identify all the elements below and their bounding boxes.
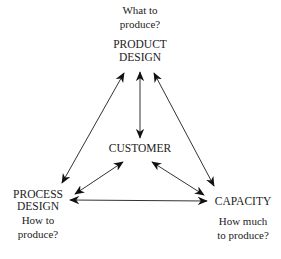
diagram-canvas: What to produce? PRODUCT DESIGN CUSTOMER… — [0, 0, 281, 259]
process-question-line1: How to — [22, 214, 55, 226]
edge-product-process — [62, 73, 124, 183]
node-process-design: PROCESS DESIGN How to produce? — [13, 188, 63, 240]
product-question-line1: What to — [122, 4, 158, 16]
edge-process-capacity — [70, 200, 207, 201]
node-capacity: CAPACITY How much to produce? — [215, 195, 272, 241]
edge-customer-capacity — [152, 162, 204, 195]
process-question-line2: produce? — [18, 228, 58, 240]
process-label-line2: DESIGN — [17, 200, 60, 212]
diagram-svg: What to produce? PRODUCT DESIGN CUSTOMER… — [0, 0, 281, 259]
customer-label: CUSTOMER — [109, 142, 172, 154]
capacity-question-line2: to produce? — [217, 229, 269, 241]
edge-customer-process — [75, 162, 123, 194]
capacity-question-line1: How much — [219, 215, 268, 227]
product-label-line1: PRODUCT — [113, 38, 167, 50]
product-label-line2: DESIGN — [119, 51, 162, 63]
process-label-line1: PROCESS — [13, 188, 63, 200]
node-customer: CUSTOMER — [109, 142, 172, 154]
capacity-label: CAPACITY — [215, 195, 272, 207]
product-question-line2: produce? — [120, 18, 160, 30]
node-product-design: What to produce? PRODUCT DESIGN — [113, 4, 167, 63]
